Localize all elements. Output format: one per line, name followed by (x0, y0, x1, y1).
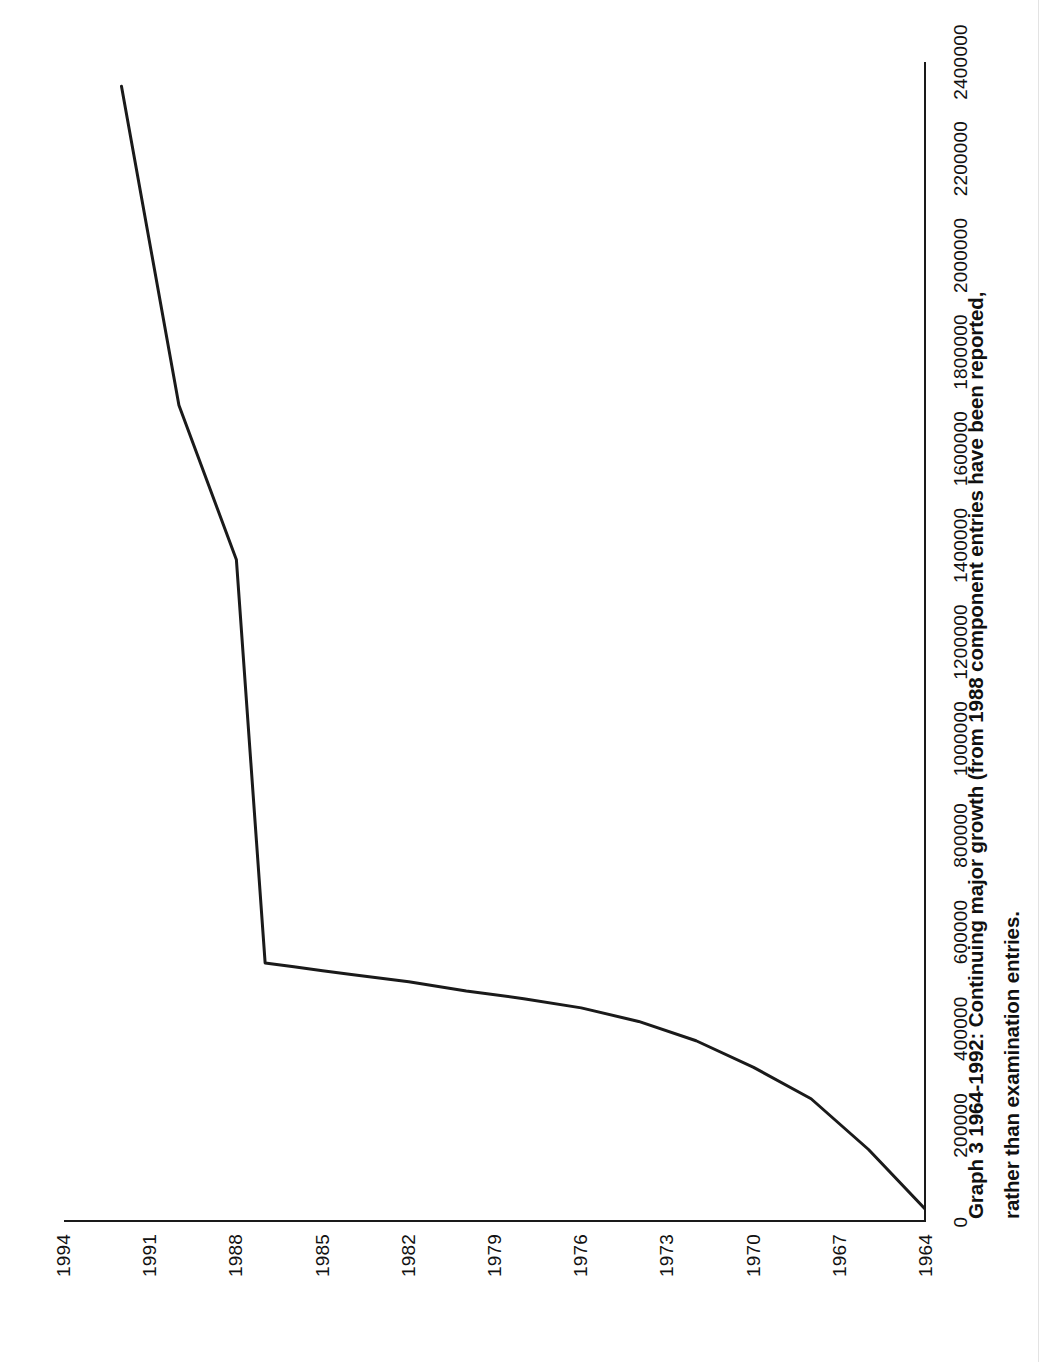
category-tick-1967: 1967 (829, 1234, 851, 1280)
page-sheet: 2400000220000020000001800000160000014000… (0, 0, 1062, 1362)
category-tick-1985: 1985 (312, 1234, 334, 1280)
category-tick-1976: 1976 (570, 1234, 592, 1280)
page-edge-shadow (1038, 0, 1039, 1362)
category-tick-1964: 1964 (915, 1234, 937, 1280)
category-tick-1973: 1973 (656, 1234, 678, 1280)
caption-line-1: Graph 3 1964-1992: Continuing major grow… (958, 89, 994, 1219)
figure-caption: Graph 3 1964-1992: Continuing major grow… (958, 89, 1030, 1219)
category-tick-1988: 1988 (225, 1234, 247, 1280)
category-tick-1970: 1970 (743, 1234, 765, 1280)
series-line-entries (121, 86, 926, 1210)
category-tick-1979: 1979 (484, 1234, 506, 1280)
data-line-svg (64, 62, 926, 1222)
plot-area (64, 62, 926, 1222)
category-tick-1994: 1994 (53, 1234, 75, 1280)
rotated-page-wrapper: 2400000220000020000001800000160000014000… (0, 0, 1062, 1362)
category-tick-1991: 1991 (139, 1234, 161, 1280)
line-chart: 2400000220000020000001800000160000014000… (64, 62, 926, 1222)
category-tick-1982: 1982 (398, 1234, 420, 1280)
caption-line-2: rather than examination entries. (994, 89, 1030, 1219)
